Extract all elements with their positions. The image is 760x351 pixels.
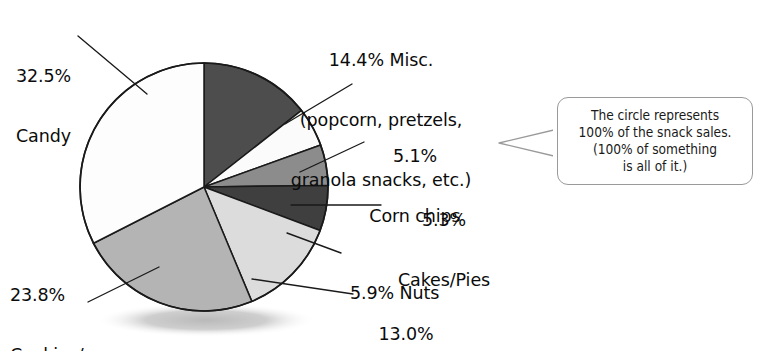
figure-canvas: 32.5% Candy 14.4% Misc. (popcorn, pretze… — [0, 0, 760, 351]
label-cookies-crackers: 23.8% Cookies/ Crackers — [10, 245, 86, 351]
callout-text: The circle represents 100% of the snack … — [573, 107, 738, 176]
label-candy-line1: 32.5% — [16, 66, 71, 86]
label-cookies-crackers-line1: 23.8% — [10, 285, 86, 305]
label-misc-line1: 14.4% Misc. — [276, 50, 486, 70]
label-cookies-crackers-line2: Cookies/ — [10, 345, 86, 351]
label-candy: 32.5% Candy — [16, 26, 71, 186]
label-candy-line2: Candy — [16, 126, 71, 146]
label-potato-chips-line1: 13.0% — [330, 324, 482, 344]
label-corn-chips-line1: 5.1% — [355, 146, 475, 166]
label-cakes-pies-line1: 5.3% — [383, 210, 505, 230]
callout-tail — [499, 129, 558, 157]
callout-box: The circle represents 100% of the snack … — [557, 97, 753, 185]
label-potato-chips: 13.0% Potato chips — [330, 284, 482, 351]
leader-line-candy — [78, 36, 147, 94]
